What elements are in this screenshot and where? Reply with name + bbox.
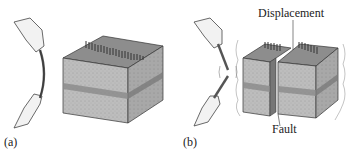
panel-b-hands xyxy=(194,18,237,126)
panel-b-blocks xyxy=(236,20,345,126)
panel-a-hands xyxy=(14,18,44,128)
displacement-label: Displacement xyxy=(258,6,324,21)
panel-b-label: (b) xyxy=(183,135,197,150)
fault-label: Fault xyxy=(272,122,297,137)
panel-a-label: (a) xyxy=(4,135,17,150)
diagram xyxy=(0,0,360,160)
panel-a-block xyxy=(63,36,163,123)
